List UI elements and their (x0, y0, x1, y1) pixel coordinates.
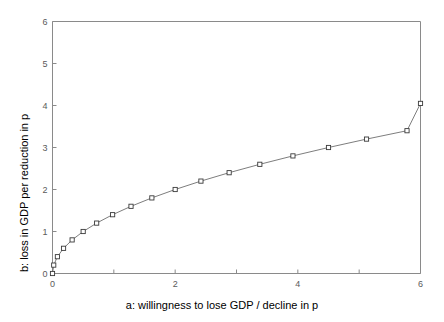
chart-plot-area: 02460123456 (0, 0, 444, 322)
data-point-marker (95, 221, 99, 225)
y-tick-label: 6 (42, 17, 47, 27)
data-line (53, 103, 421, 273)
y-tick-label: 2 (42, 185, 47, 195)
y-tick-label: 1 (42, 227, 47, 237)
y-axis-label: b: loss in GDP per reduction in p (18, 114, 30, 272)
data-point-marker (81, 229, 85, 233)
x-axis-label: a: willingness to lose GDP / decline in … (0, 299, 444, 311)
y-tick-label: 0 (42, 269, 47, 279)
data-point-marker (150, 196, 154, 200)
x-tick-label: 6 (418, 279, 423, 289)
data-point-marker (405, 129, 409, 133)
data-point-marker (291, 154, 295, 158)
data-point-marker (55, 255, 59, 259)
data-point-marker (199, 179, 203, 183)
x-tick-label: 0 (50, 279, 55, 289)
y-tick-label: 4 (42, 101, 47, 111)
x-tick-label: 4 (295, 279, 300, 289)
data-point-marker (52, 263, 56, 267)
data-point-marker (129, 204, 133, 208)
data-point-marker (111, 213, 115, 217)
data-point-marker (70, 238, 74, 242)
data-point-marker (173, 187, 177, 191)
data-point-marker (50, 271, 54, 275)
x-tick-label: 2 (173, 279, 178, 289)
data-point-marker (258, 162, 262, 166)
data-point-marker (61, 246, 65, 250)
axis-frame (53, 22, 421, 274)
y-tick-label: 3 (42, 143, 47, 153)
data-point-marker (326, 145, 330, 149)
data-point-marker (364, 137, 368, 141)
chart-figure: 02460123456 a: willingness to lose GDP /… (0, 0, 444, 322)
y-tick-label: 5 (42, 59, 47, 69)
data-point-marker (227, 171, 231, 175)
data-point-marker (418, 101, 422, 105)
